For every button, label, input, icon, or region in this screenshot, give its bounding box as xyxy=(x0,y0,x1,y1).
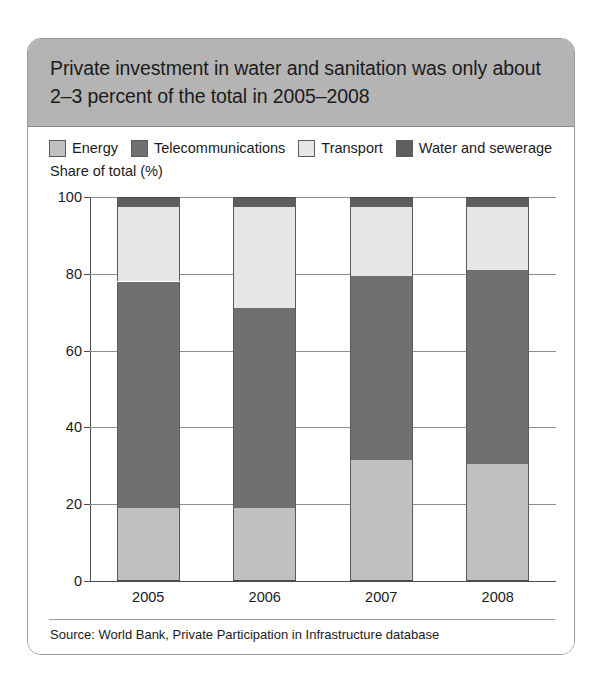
y-tick-label: 100 xyxy=(36,189,82,205)
y-tick-label: 20 xyxy=(36,496,82,512)
y-tick-label: 60 xyxy=(36,343,82,359)
bar-segment xyxy=(117,282,180,509)
bar-segment xyxy=(233,207,296,309)
plot-area xyxy=(90,197,556,581)
bar-segment xyxy=(117,508,180,581)
bar-stack xyxy=(117,197,180,581)
y-tick-label: 0 xyxy=(36,573,82,589)
x-tick-label: 2005 xyxy=(88,589,208,605)
y-axis-ticks: 020406080100 xyxy=(36,197,82,581)
x-tick-label: 2007 xyxy=(321,589,441,605)
plot-wrapper: 020406080100 2005200620072008 xyxy=(28,127,575,655)
bar-segment xyxy=(350,197,413,207)
figure-card: Private investment in water and sanitati… xyxy=(27,38,575,655)
y-tick-mark xyxy=(84,504,90,505)
y-tick-label: 80 xyxy=(36,266,82,282)
y-tick-label: 40 xyxy=(36,419,82,435)
bar-segment xyxy=(466,270,529,464)
bar-stack xyxy=(233,197,296,581)
bar-segment xyxy=(466,207,529,270)
y-tick-mark xyxy=(84,351,90,352)
x-tick-label: 2008 xyxy=(438,589,558,605)
bar-segment xyxy=(117,197,180,207)
source-note: Source: World Bank, Private Participatio… xyxy=(50,627,439,642)
bar-segment xyxy=(466,197,529,207)
x-tick-label: 2006 xyxy=(205,589,325,605)
y-tick-mark xyxy=(84,197,90,198)
bar-segment xyxy=(233,508,296,581)
source-divider xyxy=(49,619,555,620)
figure-title: Private investment in water and sanitati… xyxy=(50,54,550,110)
y-tick-mark xyxy=(84,274,90,275)
bar-segment xyxy=(233,308,296,508)
bar-segment xyxy=(350,276,413,460)
bar-stack xyxy=(350,197,413,581)
figure-body: EnergyTelecommunicationsTransportWater a… xyxy=(28,127,574,655)
bar-stack xyxy=(466,197,529,581)
bar-segment xyxy=(350,460,413,581)
bar-segment xyxy=(350,207,413,276)
y-tick-mark xyxy=(84,581,90,582)
bar-segment xyxy=(117,207,180,282)
figure-title-band: Private investment in water and sanitati… xyxy=(28,39,574,127)
bar-segment xyxy=(466,464,529,581)
bar-segment xyxy=(233,197,296,207)
gridline xyxy=(90,581,556,582)
y-tick-mark xyxy=(84,427,90,428)
